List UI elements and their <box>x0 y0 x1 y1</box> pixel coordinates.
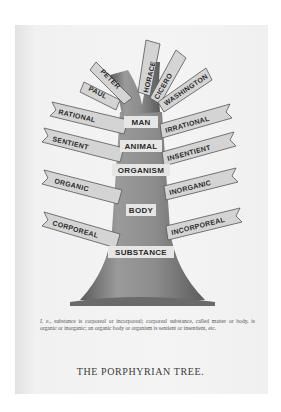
porphyrian-tree-illustration: MAN ANIMAL ORGANISM BODY SUBSTANCE RATIO… <box>0 0 281 310</box>
trunk-label-man: MAN <box>131 118 150 127</box>
caption-text: substance is corporeal or incorporeal; c… <box>40 318 255 331</box>
figure-caption: I. e., substance is corporeal or incorpo… <box>40 318 255 333</box>
caption-prefix: I. e., <box>40 318 51 324</box>
trunk-label-organism: ORGANISM <box>118 166 164 175</box>
tree-drawing: MAN ANIMAL ORGANISM BODY SUBSTANCE RATIO… <box>0 0 281 310</box>
trunk-label-substance: SUBSTANCE <box>115 248 167 257</box>
trunk-label-body: BODY <box>129 206 154 215</box>
figure-title: THE PORPHYRIAN TREE. <box>0 366 281 377</box>
trunk-label-animal: ANIMAL <box>125 142 158 151</box>
